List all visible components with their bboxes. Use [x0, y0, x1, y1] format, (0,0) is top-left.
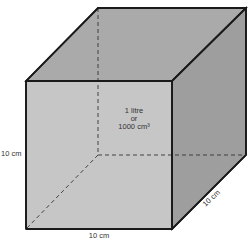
- height-label: 10 cm: [1, 149, 21, 158]
- cube-figure: 1 litre or 1000 cm³ 10 cm 10 cm 10 cm: [0, 0, 249, 249]
- cube-diagram: 1 litre or 1000 cm³ 10 cm 10 cm 10 cm: [0, 0, 249, 249]
- center-label-line3: 1000 cm³: [118, 122, 150, 131]
- width-label: 10 cm: [89, 231, 109, 240]
